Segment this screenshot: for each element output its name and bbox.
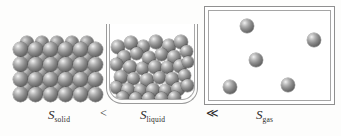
solid-sphere-4 — [73, 42, 88, 57]
solid-sphere-9 — [58, 57, 73, 72]
subscript-liquid: liquid — [147, 115, 166, 124]
solid-sphere-10 — [73, 57, 88, 72]
operator-much-less-than: ≪ — [206, 106, 219, 121]
label-entropy-solid: Ssolid — [48, 105, 70, 124]
gas-sphere-4 — [281, 78, 295, 92]
liquid-panel — [106, 24, 198, 106]
operator-less-than: < — [100, 106, 107, 121]
label-entropy-gas: Sgas — [256, 105, 273, 124]
solid-sphere-23 — [88, 87, 103, 102]
solid-sphere-19 — [28, 87, 43, 102]
solid-sphere-2 — [43, 42, 58, 57]
gas-sphere-3 — [223, 80, 237, 94]
liquid-sphere-33 — [129, 92, 142, 99]
solid-sphere-15 — [58, 72, 73, 87]
solid-sphere-12 — [13, 72, 28, 87]
solid-sphere-17 — [88, 72, 103, 87]
solid-sphere-5 — [88, 42, 103, 57]
liquid-sphere-32 — [116, 91, 129, 99]
liquid-particles-region — [110, 34, 194, 99]
liquid-sphere-3 — [149, 35, 163, 49]
subscript-solid: solid — [55, 115, 71, 124]
label-entropy-liquid: Sliquid — [140, 105, 165, 124]
solid-sphere-20 — [43, 87, 58, 102]
solid-sphere-16 — [73, 72, 88, 87]
subscript-gas: gas — [263, 115, 274, 124]
solid-sphere-1 — [28, 42, 43, 57]
solid-sphere-8 — [43, 57, 58, 72]
solid-sphere-6 — [13, 57, 28, 72]
solid-panel — [11, 34, 105, 104]
solid-sphere-13 — [28, 72, 43, 87]
gas-particles-region — [209, 11, 330, 100]
solid-sphere-3 — [58, 42, 73, 57]
solid-sphere-14 — [43, 72, 58, 87]
liquid-sphere-36 — [168, 91, 181, 99]
gas-sphere-1 — [307, 33, 321, 47]
liquid-sphere-31 — [181, 79, 194, 92]
solid-sphere-0 — [13, 42, 28, 57]
liquid-sphere-35 — [155, 92, 168, 99]
solid-sphere-11 — [88, 57, 103, 72]
gas-sphere-2 — [249, 53, 263, 67]
gas-panel — [204, 6, 335, 105]
solid-sphere-21 — [58, 87, 73, 102]
entropy-states-figure: Ssolid < Sliquid ≪ Sgas — [0, 0, 341, 136]
liquid-sphere-34 — [142, 92, 155, 99]
liquid-sphere-10 — [155, 48, 168, 61]
solid-sphere-7 — [28, 57, 43, 72]
solid-sphere-22 — [73, 87, 88, 102]
solid-sphere-18 — [13, 87, 28, 102]
gas-sphere-0 — [240, 19, 254, 33]
liquid-sphere-18 — [182, 56, 194, 68]
